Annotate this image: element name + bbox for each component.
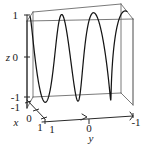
space-curve bbox=[30, 11, 127, 102]
x-tick-label-0: 0 bbox=[26, 112, 32, 124]
z-axis-title: z bbox=[5, 51, 11, 63]
y-tick-label-1: 1 bbox=[49, 123, 55, 135]
x-tick-label-neg1: -1 bbox=[11, 101, 20, 113]
y-tick-label-neg1: -1 bbox=[131, 116, 140, 128]
x-tick-label-1: 1 bbox=[37, 121, 43, 133]
box-edge-top-back bbox=[33, 4, 121, 12]
x-axis-title: x bbox=[13, 116, 19, 128]
axis-lines bbox=[27, 15, 133, 122]
box-edge-bottom-back bbox=[33, 93, 121, 97]
z-tick-label-0: 0 bbox=[13, 51, 19, 63]
box-edge-bottom-right bbox=[121, 93, 133, 105]
space-curve-group bbox=[30, 11, 127, 102]
box-edge-top-front bbox=[27, 19, 133, 21]
y-axis-title: y bbox=[88, 132, 94, 144]
z-tick-label-1: 1 bbox=[13, 9, 19, 21]
3d-plot-svg: 1 0 -1 -1 0 1 1 0 -1 z x y bbox=[0, 0, 143, 145]
figure-container: 1 0 -1 -1 0 1 1 0 -1 z x y bbox=[0, 0, 143, 145]
